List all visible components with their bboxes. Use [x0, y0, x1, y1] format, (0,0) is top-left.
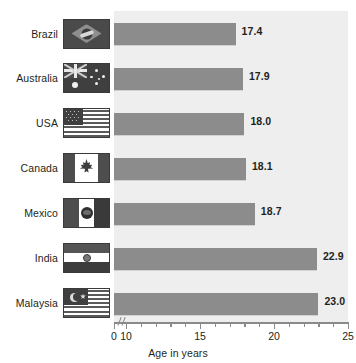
category-label: Malaysia — [16, 297, 63, 309]
x-axis-tick-label: 25 — [342, 330, 354, 342]
x-axis-tick-label: 20 — [268, 330, 280, 342]
value-label: 18.1 — [252, 160, 273, 172]
flag-mexico-icon — [63, 198, 110, 228]
x-axis-tick-minor — [230, 322, 231, 327]
bar-india — [114, 248, 317, 270]
bar-mexico — [114, 203, 255, 225]
category-label: Australia — [16, 72, 63, 84]
x-axis-tick-major — [114, 322, 115, 329]
x-axis-tick-minor — [215, 322, 216, 327]
x-axis-line — [114, 322, 348, 324]
category-label: India — [35, 252, 63, 264]
value-label: 18.0 — [250, 115, 271, 127]
flag-brazil-icon — [63, 19, 110, 49]
category-row-australia: Australia — [0, 55, 110, 100]
axis-break-icon — [119, 317, 126, 326]
flag-india-icon — [63, 243, 110, 273]
x-axis-tick-minor — [156, 322, 157, 327]
category-row-mexico: Mexico — [0, 190, 110, 235]
category-row-canada: Canada — [0, 145, 110, 190]
value-label: 18.7 — [261, 205, 282, 217]
bar-brazil — [114, 23, 236, 45]
x-axis-tick-minor — [141, 322, 142, 327]
value-label: 17.9 — [249, 70, 270, 82]
category-label: Canada — [21, 162, 63, 174]
value-label: 22.9 — [323, 250, 344, 262]
x-axis-tick-minor — [304, 322, 305, 327]
bar-canada — [114, 158, 246, 180]
x-axis-tick-major — [200, 322, 201, 329]
category-label: Brazil — [31, 28, 63, 40]
value-label: 23.0 — [324, 295, 345, 307]
x-axis-tick-minor — [259, 322, 260, 327]
x-axis-tick-label: 15 — [194, 330, 206, 342]
x-axis-tick-major — [274, 322, 275, 329]
x-axis-tick-minor — [170, 322, 171, 327]
category-row-usa: USA — [0, 100, 110, 145]
x-axis-tick-minor — [318, 322, 319, 327]
x-axis-tick-major — [348, 322, 349, 329]
flag-malaysia-icon — [63, 288, 110, 318]
x-axis-tick-minor — [289, 322, 290, 327]
category-label: Mexico — [24, 207, 63, 219]
flag-canada-icon — [63, 153, 110, 183]
flag-australia-icon — [63, 63, 110, 93]
x-axis-tick-minor — [185, 322, 186, 327]
x-axis-tick-minor — [244, 322, 245, 327]
bar-malaysia — [114, 293, 318, 315]
category-row-india: India — [0, 235, 110, 280]
bar-australia — [114, 68, 243, 90]
flag-usa-icon — [63, 108, 110, 138]
category-row-malaysia: Malaysia — [0, 280, 110, 325]
value-label: 17.4 — [242, 25, 263, 37]
bar-usa — [114, 113, 244, 135]
category-label: USA — [36, 117, 63, 129]
category-row-brazil: Brazil — [0, 11, 110, 56]
x-axis-tick-major — [126, 322, 127, 329]
bar-chart: Brazil Australia USA — [0, 0, 356, 363]
plot-area: 17.4 17.9 18.0 18.1 18.7 22.9 23.0 — [114, 11, 348, 322]
x-axis-title: Age in years — [0, 347, 356, 359]
x-axis-tick-minor — [333, 322, 334, 327]
x-axis-tick-label: 10 — [120, 330, 132, 342]
x-axis-tick-label: 0 — [111, 330, 117, 342]
